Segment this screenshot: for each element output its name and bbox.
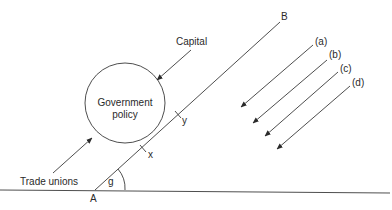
circle-label-line2: policy xyxy=(112,109,138,120)
circle-label-line1: Government xyxy=(97,97,152,108)
angle-label-g: g xyxy=(108,176,114,187)
point-a-label: A xyxy=(90,193,97,204)
arrow-d-label: (d) xyxy=(352,77,364,88)
trade-unions-label: Trade unions xyxy=(20,176,78,187)
point-b-label: B xyxy=(281,11,288,22)
trade-unions-arrow xyxy=(53,138,92,173)
point-x-label: x xyxy=(148,149,153,160)
capital-arrow xyxy=(157,50,191,80)
arrow-a xyxy=(241,45,313,107)
arrow-a-label: (a) xyxy=(315,36,327,47)
angle-arc xyxy=(118,169,125,190)
ground-line xyxy=(0,190,390,193)
point-y-label: y xyxy=(182,115,187,126)
capital-label: Capital xyxy=(176,36,207,47)
arrow-d xyxy=(277,86,350,149)
government-policy-diagram: g Government policy Capital Trade unions… xyxy=(0,0,392,210)
arrow-c-label: (c) xyxy=(340,63,352,74)
arrow-b-label: (b) xyxy=(329,49,341,60)
